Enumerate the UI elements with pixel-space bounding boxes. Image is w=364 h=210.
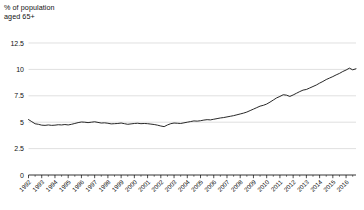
x-tick-label: 2008 [229, 178, 244, 193]
x-tick-label: 1997 [84, 178, 99, 193]
x-tick-label: 2016 [335, 178, 350, 193]
y-tick-label: 0 [20, 172, 24, 179]
series-line-population-65plus [29, 68, 357, 127]
y-tick-label: 10 [16, 66, 24, 73]
y-axis-tick-labels: 02.557.51012.5 [10, 40, 24, 179]
line-chart: 02.557.51012.5 1992199319941995199619971… [0, 0, 364, 210]
x-tick-label: 2007 [216, 178, 231, 193]
gridlines [29, 43, 357, 175]
x-tick-label: 1999 [110, 178, 125, 193]
x-tick-label: 2012 [282, 178, 297, 193]
x-tick-label: 2002 [150, 178, 165, 193]
x-tick-label: 2014 [309, 178, 324, 193]
x-tick-label: 1994 [44, 178, 59, 193]
x-axis-tick-labels: 1992199319941995199619971998199920002001… [18, 178, 351, 193]
x-tick-label: 2003 [163, 178, 178, 193]
x-tick-label: 2001 [137, 178, 152, 193]
chart-container: % of population aged 65+ 02.557.51012.5 … [0, 0, 364, 210]
x-tick-label: 1996 [70, 178, 85, 193]
x-tick-label: 2005 [190, 178, 205, 193]
x-tick-label: 1998 [97, 178, 112, 193]
x-tick-label: 2009 [242, 178, 257, 193]
x-tick-label: 2006 [203, 178, 218, 193]
x-tick-label: 1993 [31, 178, 46, 193]
x-tick-label: 1995 [57, 178, 72, 193]
x-tick-label: 2011 [269, 178, 284, 193]
x-tick-label: 2000 [123, 178, 138, 193]
x-axis-ticks [29, 175, 353, 178]
x-tick-label: 2015 [322, 178, 337, 193]
data-series-group [29, 68, 357, 127]
x-tick-label: 2013 [295, 178, 310, 193]
x-tick-label: 1992 [18, 178, 33, 193]
x-tick-label: 2004 [176, 178, 191, 193]
y-tick-label: 12.5 [10, 40, 24, 47]
y-tick-label: 7.5 [14, 92, 24, 99]
x-tick-label: 2010 [256, 178, 271, 193]
y-tick-label: 5 [20, 119, 24, 126]
y-tick-label: 2.5 [14, 145, 24, 152]
